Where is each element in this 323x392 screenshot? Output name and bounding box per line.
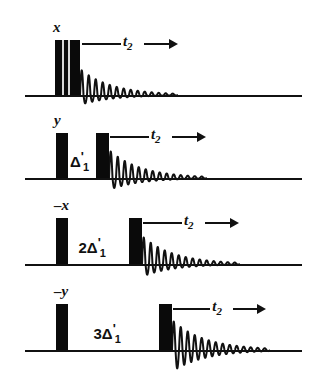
read-pulse-3: [159, 304, 172, 350]
delay-subscript: 1: [115, 333, 121, 345]
pulse-sequence-figure: xt2yΔ'1t2–x2Δ'1t2–y3Δ'1t2: [0, 0, 323, 392]
phase-label-3: –y: [54, 284, 68, 299]
delay-label-3: 3Δ'1: [94, 322, 121, 345]
acquisition-arrow-line-left-3: [173, 308, 210, 310]
fid-signal: [172, 316, 270, 378]
acquisition-arrow-line-right-3: [233, 308, 257, 310]
pulse-sequence-row-3: –y3Δ'1t2: [0, 0, 323, 392]
delta-symbol: Δ: [102, 325, 113, 342]
acquisition-arrow-head-3: [257, 304, 266, 314]
preparation-pulse-3: [56, 304, 68, 350]
acquisition-time-label-3: t2: [212, 299, 222, 317]
delay-multiplier: 3: [94, 325, 102, 342]
